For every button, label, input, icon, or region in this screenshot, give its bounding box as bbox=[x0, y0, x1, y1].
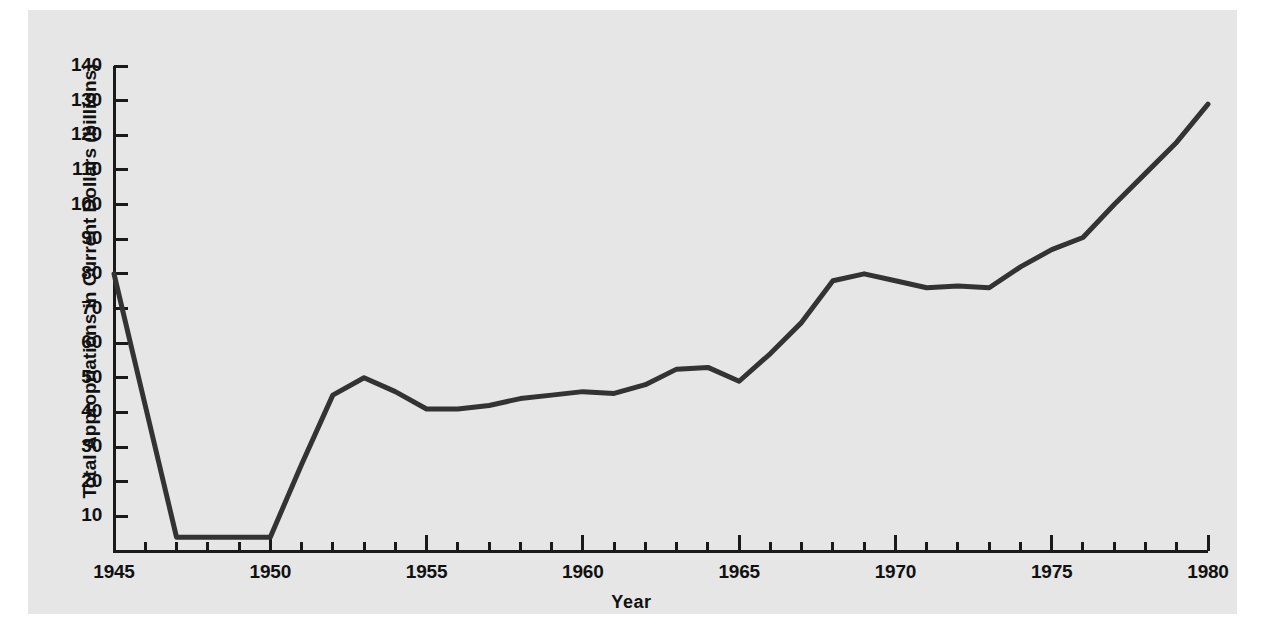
plot-area bbox=[0, 0, 1263, 644]
x-tick-label: 1980 bbox=[1168, 561, 1248, 583]
x-tick-label: 1970 bbox=[855, 561, 935, 583]
x-axis-title: Year bbox=[0, 592, 1263, 613]
tick-marks bbox=[114, 66, 1208, 551]
axes bbox=[113, 66, 1208, 551]
series-line-0 bbox=[114, 104, 1208, 537]
x-tick-label: 1945 bbox=[74, 561, 154, 583]
x-tick-label: 1975 bbox=[1012, 561, 1092, 583]
y-axis-title: Total Appropriations in Current Dollars … bbox=[79, 51, 101, 511]
x-tick-label: 1965 bbox=[699, 561, 779, 583]
x-tick-label: 1960 bbox=[543, 561, 623, 583]
x-tick-label: 1955 bbox=[387, 561, 467, 583]
chart-figure: 102030405060708090100110120130140 194519… bbox=[0, 0, 1263, 644]
x-tick-label: 1950 bbox=[230, 561, 310, 583]
data-series bbox=[114, 104, 1208, 537]
